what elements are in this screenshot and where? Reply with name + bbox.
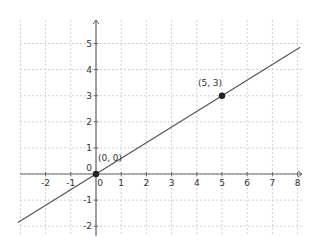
- axes: [20, 20, 302, 236]
- x-tick-label: 3: [169, 178, 175, 188]
- x-tick-label: 5: [219, 178, 225, 188]
- x-tick-label: 0: [97, 178, 103, 188]
- coordinate-plane: -2-1012345678-2-1123450 (0, 0)(5, 3): [0, 0, 322, 242]
- data-point: [93, 171, 99, 177]
- x-tick-label: -1: [66, 178, 75, 188]
- data-line: [18, 47, 300, 222]
- x-tick-label: 4: [194, 178, 200, 188]
- y-tick-label: 2: [86, 117, 92, 127]
- data-point: [219, 93, 225, 99]
- y-tick-label: 3: [86, 91, 92, 101]
- y-tick-label: -2: [83, 221, 92, 231]
- y-tick-label: 4: [86, 65, 92, 75]
- x-tick-label: -2: [41, 178, 50, 188]
- tick-labels: -2-1012345678-2-1123450: [41, 39, 301, 232]
- x-tick-label: 6: [244, 178, 250, 188]
- data-points: (0, 0)(5, 3): [93, 78, 225, 178]
- point-label: (0, 0): [98, 153, 122, 163]
- origin-label: 0: [86, 163, 92, 173]
- point-label: (5, 3): [198, 78, 222, 88]
- series-line: [18, 47, 300, 222]
- grid-lines: [20, 20, 302, 236]
- y-tick-label: 5: [86, 39, 92, 49]
- y-tick-label: 1: [86, 143, 92, 153]
- y-tick-label: -1: [83, 195, 92, 205]
- x-tick-label: 7: [270, 178, 276, 188]
- x-tick-label: 8: [295, 178, 301, 188]
- x-tick-label: 2: [144, 178, 150, 188]
- x-tick-label: 1: [118, 178, 124, 188]
